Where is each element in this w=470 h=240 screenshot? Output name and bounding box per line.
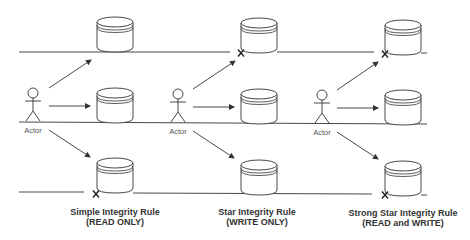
x-mark-icon: [238, 50, 244, 57]
actor-label: Actor: [302, 128, 342, 137]
database-cylinder-icon: [385, 161, 421, 196]
actor-label: Actor: [13, 126, 53, 135]
arrow-right-icon: [193, 61, 235, 89]
database-cylinder-icon: [241, 18, 277, 53]
level-lines: [19, 52, 427, 195]
stick-figure-icon: [314, 90, 330, 123]
stick-figure-icon: [170, 89, 186, 122]
integrity-rules-diagram: [0, 0, 470, 240]
caption-title: Simple Integrity Rule: [40, 207, 190, 217]
caption-title: Strong Star Integrity Rule: [328, 208, 470, 218]
stick-figure-icon: [25, 88, 41, 121]
panel-star-integrity: [170, 18, 277, 195]
arrow-right-icon: [337, 132, 378, 159]
caption-simple-integrity: Simple Integrity Rule (READ ONLY): [40, 207, 190, 227]
database-cylinder-icon: [385, 90, 421, 125]
arrow-right-icon: [49, 130, 90, 157]
caption-subtitle: (WRITE ONLY): [182, 217, 332, 227]
database-cylinder-icon: [97, 17, 133, 52]
database-cylinder-icon: [97, 88, 133, 123]
caption-star-integrity: Star Integrity Rule (WRITE ONLY): [182, 207, 332, 227]
panel-strong-star-integrity: [314, 20, 421, 199]
caption-subtitle: (READ and WRITE): [328, 218, 470, 228]
database-cylinder-icon: [241, 89, 277, 124]
caption-subtitle: (READ ONLY): [40, 217, 190, 227]
actor-label: Actor: [158, 127, 198, 136]
x-mark-icon: [93, 191, 99, 198]
panel-simple-integrity: [25, 17, 133, 198]
middle-level-line: [19, 122, 427, 124]
caption-strong-star-integrity: Strong Star Integrity Rule (READ and WRI…: [328, 208, 470, 228]
arrow-right-icon: [193, 131, 234, 158]
database-cylinder-icon: [385, 20, 421, 55]
arrow-right-icon: [337, 62, 378, 90]
caption-title: Star Integrity Rule: [182, 207, 332, 217]
database-cylinder-icon: [97, 158, 133, 193]
database-cylinder-icon: [241, 160, 277, 195]
arrow-right-icon: [49, 60, 91, 88]
